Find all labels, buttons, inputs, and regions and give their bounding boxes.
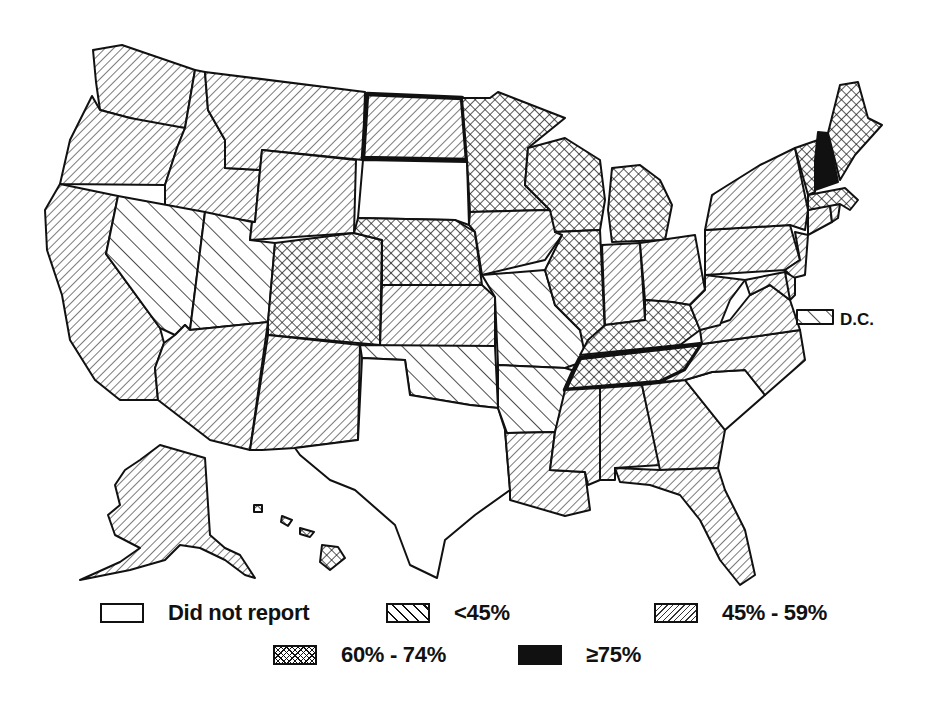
legend-label: 60% - 74% [341,642,446,668]
legend-label: 45% - 59% [722,600,827,626]
state-NY [705,148,808,230]
state-IN [602,243,645,325]
state-WY [250,150,356,240]
state-ME [828,82,882,180]
state-HI [254,505,345,570]
state-RI [830,204,840,222]
state-SD [358,160,469,225]
swatch-solid-icon [518,645,562,665]
state-FL [615,468,755,585]
legend-label: Did not report [168,600,309,626]
legend-label: ≥75% [586,642,641,668]
state-PA [705,225,800,275]
legend-label: <45% [454,600,510,626]
dc-label: D.C. [840,310,874,329]
legend-item-60to74: 60% - 74% [273,642,446,668]
state-AZ [155,322,268,450]
state-KS [380,285,495,348]
legend-item-45to59: 45% - 59% [654,600,827,626]
legend: Did not report <45% 45% - 59% 60% - 74% … [0,598,928,678]
state-OH [640,235,705,305]
swatch-blank-icon [100,603,144,623]
state-NM [250,335,360,450]
state-MI [608,165,672,242]
legend-item-ge75: ≥75% [518,642,641,668]
state-ND [363,94,467,160]
swatch-wide-hatch-icon [386,603,430,623]
state-DC [797,310,833,324]
legend-item-none: Did not report [100,600,309,626]
state-CO [268,233,382,345]
state-AK [80,445,255,580]
swatch-crosshatch-icon [273,645,317,665]
swatch-fine-hatch-icon [654,603,698,623]
legend-item-lt45: <45% [386,600,510,626]
